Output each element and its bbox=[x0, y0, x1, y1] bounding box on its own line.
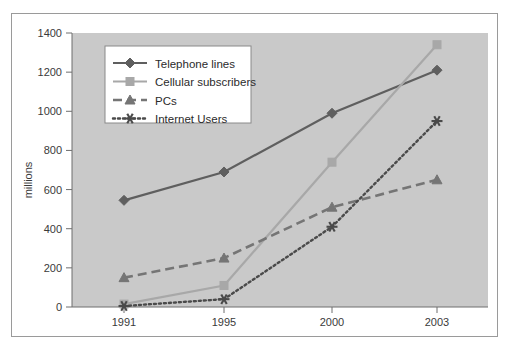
y-tick-label: 400 bbox=[44, 223, 62, 235]
x-tick-label: 1995 bbox=[212, 316, 236, 328]
legend-item-label: Cellular subscribers bbox=[155, 76, 256, 88]
chart-container: 0200400600800100012001400 19911995200020… bbox=[0, 0, 516, 352]
y-tick-label: 0 bbox=[56, 301, 62, 313]
x-axis-ticks: 1991199520002003 bbox=[112, 307, 449, 328]
y-tick-label: 800 bbox=[44, 144, 62, 156]
y-tick-label: 1400 bbox=[38, 27, 62, 39]
x-tick-label: 1991 bbox=[112, 316, 136, 328]
y-axis-title: millions bbox=[22, 161, 34, 198]
legend-item-label: PCs bbox=[155, 95, 177, 107]
marker-square bbox=[433, 41, 441, 49]
marker-square bbox=[126, 78, 134, 86]
line-chart-plot: 0200400600800100012001400 19911995200020… bbox=[0, 0, 516, 352]
y-tick-label: 1000 bbox=[38, 105, 62, 117]
y-tick-label: 200 bbox=[44, 262, 62, 274]
marker-square bbox=[220, 281, 228, 289]
legend-item-label: Internet Users bbox=[155, 113, 227, 125]
marker-square bbox=[328, 158, 336, 166]
y-tick-label: 1200 bbox=[38, 66, 62, 78]
legend-item-label: Telephone lines bbox=[155, 58, 235, 70]
chart-legend: Telephone linesCellular subscribersPCsIn… bbox=[105, 46, 256, 125]
x-tick-label: 2003 bbox=[425, 316, 449, 328]
x-tick-label: 2000 bbox=[320, 316, 344, 328]
y-tick-label: 600 bbox=[44, 184, 62, 196]
y-axis-ticks: 0200400600800100012001400 bbox=[38, 27, 72, 313]
